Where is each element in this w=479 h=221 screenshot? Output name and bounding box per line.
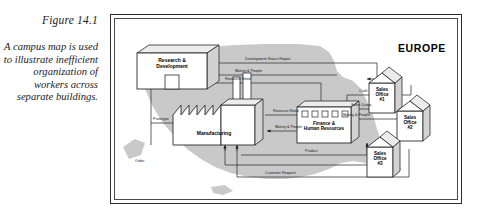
- flow-label-money-people-top: Money & People: [235, 69, 262, 73]
- flow-label-order: Order: [135, 159, 144, 163]
- diagram-stage: Research & Development Manufacturing Fin…: [115, 19, 457, 199]
- flow-label-product: Product: [305, 149, 318, 153]
- figure-number: Figure 14.1: [0, 14, 104, 27]
- sales-office-label-1: Sales Office #1: [369, 87, 395, 103]
- sales-office-label-2: Sales Office #2: [397, 115, 423, 131]
- figure-caption-text: A campus map is used to illustrate ineff…: [0, 41, 104, 104]
- figure-frame-inner: Research & Development Manufacturing Fin…: [114, 18, 458, 200]
- flow-label-resource-need-mfg: Resource Need: [273, 109, 299, 113]
- figure-frame: Research & Development Manufacturing Fin…: [110, 14, 462, 204]
- building-label-manufacturing: Manufacturing: [173, 131, 255, 137]
- flow-label-customer-request: Customer Request: [265, 171, 296, 175]
- flow-label-prototype: Prototype: [153, 117, 169, 121]
- building-label-research-development: Research & Development: [137, 58, 207, 69]
- building-label-finance-human-resources: Finance & Human Resources: [297, 121, 351, 131]
- region-label-europe: EUROPE: [398, 42, 446, 54]
- figure-page: Figure 14.1 A campus map is used to illu…: [0, 0, 479, 221]
- flow-label-money-people-sales: Money & People: [343, 113, 370, 117]
- flow-label-development-status-report: Development Status Report: [245, 57, 290, 61]
- caption-column: Figure 14.1 A campus map is used to illu…: [0, 0, 104, 221]
- flow-label-sales-quota: Sales Quota: [351, 103, 371, 107]
- sales-office-label-3: Sales Office #3: [367, 151, 393, 167]
- flow-label-cash: Cash: [359, 89, 368, 93]
- flow-label-resource-need-top: Resource Need: [225, 77, 251, 81]
- flow-label-money-people-mfg: Money & People: [275, 125, 302, 129]
